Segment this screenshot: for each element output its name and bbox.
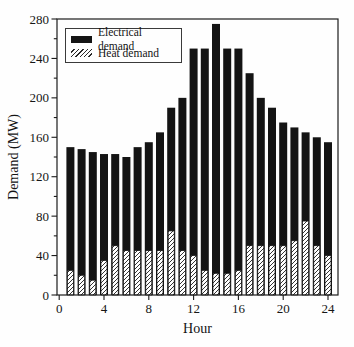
x-tick-label-4: 4 bbox=[101, 301, 108, 316]
y-tick-label-240: 240 bbox=[30, 51, 50, 66]
bar-heat-hour-13 bbox=[202, 270, 208, 295]
bar-heat-hour-2 bbox=[79, 275, 85, 295]
bar-heat-hour-20 bbox=[280, 246, 286, 295]
bar-heat-hour-18 bbox=[258, 246, 264, 295]
bar-heat-hour-3 bbox=[90, 280, 96, 295]
bar-electrical-hour-2 bbox=[78, 149, 86, 295]
y-tick-label-0: 0 bbox=[43, 288, 50, 303]
heat-demand-swatch bbox=[71, 49, 92, 57]
demand-bar-chart: 0408012016020024028004812162024 Electric… bbox=[0, 0, 354, 347]
bar-heat-hour-14 bbox=[213, 273, 219, 295]
x-tick-label-0: 0 bbox=[56, 301, 63, 316]
bar-heat-hour-21 bbox=[291, 241, 297, 295]
bar-heat-hour-9 bbox=[157, 251, 163, 295]
x-tick-label-24: 24 bbox=[322, 301, 336, 316]
bar-heat-hour-22 bbox=[303, 221, 309, 295]
heat-demand-label: Heat demand bbox=[98, 46, 159, 60]
bar-electrical-hour-14 bbox=[212, 24, 220, 295]
bar-heat-hour-17 bbox=[247, 246, 253, 295]
bar-heat-hour-5 bbox=[112, 246, 118, 295]
bar-electrical-hour-15 bbox=[223, 49, 231, 295]
x-tick-label-20: 20 bbox=[277, 301, 290, 316]
bar-electrical-hour-13 bbox=[201, 49, 209, 295]
y-tick-label-40: 40 bbox=[36, 248, 49, 263]
bar-electrical-hour-16 bbox=[234, 49, 242, 295]
bars-layer bbox=[66, 24, 332, 295]
y-tick-label-200: 200 bbox=[30, 90, 50, 105]
bar-heat-hour-10 bbox=[168, 231, 174, 295]
bar-heat-hour-1 bbox=[67, 270, 73, 295]
y-tick-label-120: 120 bbox=[30, 169, 50, 184]
y-axis-title: Demand (MW) bbox=[6, 114, 22, 200]
legend-item-electrical: Electrical demand bbox=[71, 32, 181, 46]
bar-heat-hour-12 bbox=[191, 256, 197, 295]
bar-heat-hour-4 bbox=[101, 261, 107, 296]
bar-heat-hour-24 bbox=[325, 256, 331, 295]
y-tick-label-160: 160 bbox=[30, 130, 50, 145]
y-tick-label-280: 280 bbox=[30, 12, 50, 27]
y-tick-label-80: 80 bbox=[36, 209, 49, 224]
bar-heat-hour-8 bbox=[146, 251, 152, 295]
bar-heat-hour-16 bbox=[235, 270, 241, 295]
x-tick-label-8: 8 bbox=[146, 301, 153, 316]
x-axis-title: Hour bbox=[57, 321, 338, 337]
bar-heat-hour-15 bbox=[224, 273, 230, 295]
legend: Electrical demand Heat demand bbox=[65, 28, 182, 63]
bar-heat-hour-6 bbox=[123, 251, 129, 295]
electrical-demand-swatch bbox=[71, 36, 92, 43]
bar-heat-hour-23 bbox=[314, 246, 320, 295]
x-tick-label-16: 16 bbox=[232, 301, 246, 316]
bar-heat-hour-19 bbox=[269, 246, 275, 295]
bar-heat-hour-11 bbox=[179, 251, 185, 295]
x-tick-label-12: 12 bbox=[187, 301, 200, 316]
bar-electrical-hour-3 bbox=[89, 152, 97, 295]
bar-heat-hour-7 bbox=[135, 251, 141, 295]
